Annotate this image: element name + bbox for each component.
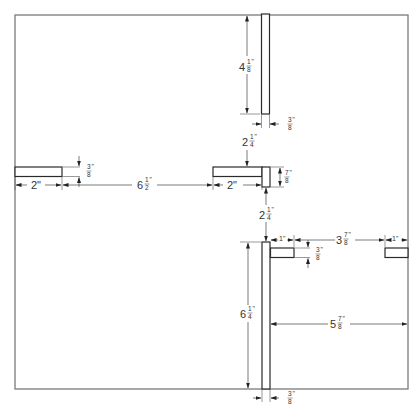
svg-text:3: 3	[87, 163, 91, 170]
svg-text:2: 2	[145, 184, 149, 191]
dim-gap-top-to-t: 2 1 4 "	[242, 133, 258, 149]
svg-text:": "	[272, 206, 275, 213]
bottom-vertical-bar	[262, 242, 270, 389]
dim-bottom-bar-width: 3 8 "	[288, 390, 296, 406]
svg-text:": "	[293, 116, 296, 123]
center-t-arm	[213, 167, 262, 177]
svg-text:": "	[255, 133, 258, 140]
svg-text:4: 4	[250, 141, 254, 148]
dim-gap-t-to-bottom: 2 1 4 "	[259, 206, 275, 222]
svg-text:1: 1	[145, 176, 149, 183]
svg-text:": "	[253, 305, 256, 312]
dim-gap-left-to-t: 6 1 2 "	[137, 176, 153, 192]
left-horizontal-bar	[15, 167, 62, 177]
svg-text:": "	[293, 390, 296, 397]
svg-text:": "	[290, 169, 293, 176]
svg-text:8: 8	[247, 66, 251, 73]
svg-text:1: 1	[267, 206, 271, 213]
svg-text:4: 4	[248, 313, 252, 320]
dim-left-bar-thickness: 3 8 "	[87, 163, 95, 179]
center-t-flange	[262, 167, 270, 187]
svg-text:8: 8	[338, 323, 342, 330]
dim-tab-length: 1"	[279, 235, 286, 242]
svg-text:1: 1	[247, 58, 251, 65]
svg-text:1: 1	[248, 305, 252, 312]
drawing-frame	[15, 15, 408, 389]
dim-t-arm-length: 2"	[227, 179, 237, 191]
svg-text:1: 1	[250, 133, 254, 140]
dim-bottom-bar-to-right-edge: 5 7 8 "	[330, 315, 346, 331]
dim-t-flange-height: 7 8 "	[285, 169, 293, 185]
svg-text:7: 7	[344, 231, 348, 238]
svg-text:4: 4	[267, 214, 271, 221]
svg-text:8: 8	[288, 398, 292, 405]
svg-text:6: 6	[240, 308, 246, 320]
svg-text:3: 3	[288, 390, 292, 397]
svg-text:8: 8	[87, 171, 91, 178]
dim-left-bar-length: 2"	[31, 179, 41, 191]
svg-text:": "	[343, 315, 346, 322]
svg-text:7: 7	[338, 315, 342, 322]
svg-text:": "	[349, 231, 352, 238]
svg-text:": "	[92, 163, 95, 170]
svg-text:8: 8	[285, 177, 289, 184]
svg-text:3: 3	[288, 116, 292, 123]
dim-tab-thickness: 3 8 "	[316, 246, 324, 262]
svg-text:6: 6	[137, 179, 143, 191]
dim-top-bar-width: 3 8 "	[288, 116, 296, 132]
svg-text:7: 7	[285, 169, 289, 176]
dim-bottom-bar-length: 6 1 4 "	[240, 305, 256, 321]
dim-right-tab-length: 1"	[392, 235, 399, 242]
svg-text:3: 3	[316, 246, 320, 253]
svg-text:": "	[321, 246, 324, 253]
svg-text:2: 2	[259, 209, 265, 221]
svg-text:8: 8	[316, 254, 320, 261]
dim-gap-tab-to-right-tab: 3 7 8 "	[336, 231, 352, 247]
svg-text:5: 5	[330, 318, 336, 330]
svg-text:4: 4	[239, 61, 245, 73]
inner-tab	[271, 248, 295, 258]
svg-text:3: 3	[336, 234, 342, 246]
right-tab	[385, 248, 408, 258]
svg-text:8: 8	[344, 239, 348, 246]
svg-text:": "	[150, 176, 153, 183]
technical-drawing: 4 1 8 " 3 8 " 2 1 4 " 7 8 " 2"	[0, 0, 419, 409]
svg-text:2: 2	[242, 136, 248, 148]
svg-text:8: 8	[288, 124, 292, 131]
top-vertical-bar	[262, 14, 270, 114]
